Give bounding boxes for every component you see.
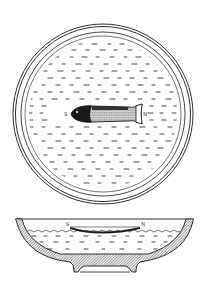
south-label: S bbox=[64, 111, 68, 117]
fish-compass-illustration: S N S N bbox=[0, 0, 206, 286]
bowl-top-view: S N bbox=[13, 24, 193, 204]
north-label-side: N bbox=[141, 221, 146, 227]
fish-top-view: S N bbox=[64, 104, 148, 124]
fish-side-view: S N bbox=[66, 221, 146, 234]
north-label: N bbox=[143, 111, 148, 117]
side-water-texture bbox=[32, 236, 172, 249]
bowl-side-view: S N bbox=[15, 219, 194, 272]
south-label-side: S bbox=[66, 221, 70, 227]
